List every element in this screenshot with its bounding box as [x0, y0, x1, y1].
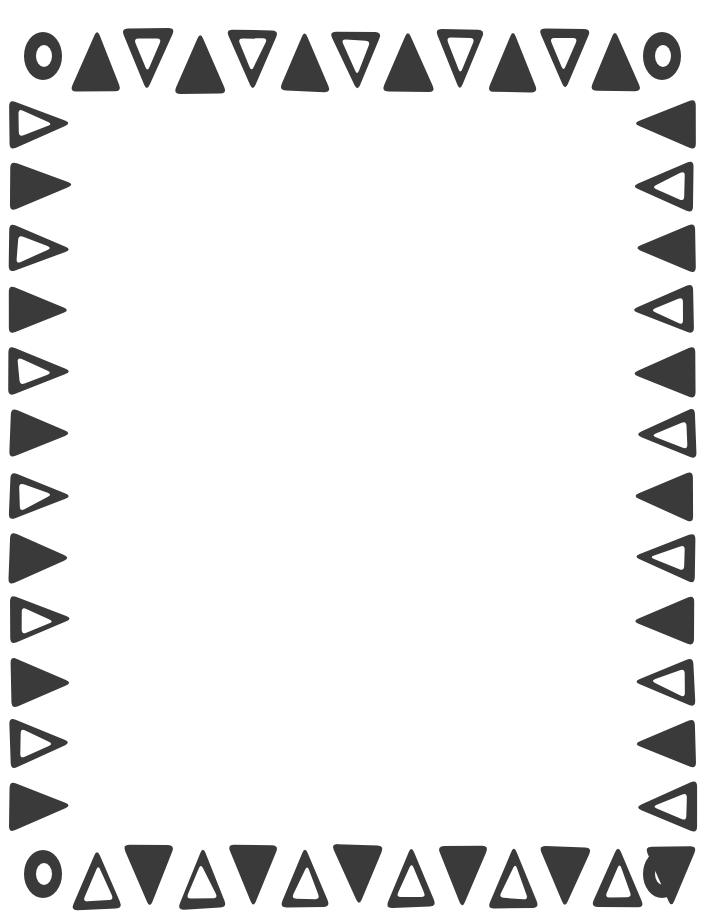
corner-ring-top-left	[24, 32, 62, 80]
ring-hole	[655, 45, 671, 67]
border-artwork	[0, 0, 705, 922]
page-background	[0, 0, 705, 922]
corner-ring-bottom-left	[24, 850, 62, 898]
ring-hole	[36, 863, 52, 885]
corner-ring-top-right	[643, 32, 681, 80]
border-frame-page	[0, 0, 705, 922]
ring-hole	[36, 45, 52, 67]
